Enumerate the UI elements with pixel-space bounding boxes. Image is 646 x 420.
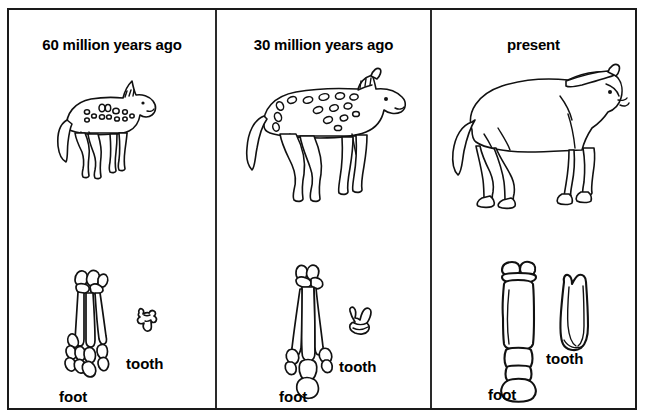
animal-illustration-30mya xyxy=(234,64,414,204)
panel-title-60mya: 60 million years ago xyxy=(9,36,215,53)
animal-illustration-present xyxy=(440,62,636,207)
horse-evolution-figure: 60 million years ago xyxy=(0,0,646,420)
foot-label-60mya: foot xyxy=(59,388,87,405)
tooth-label-60mya: tooth xyxy=(126,355,163,372)
animal-illustration-60mya xyxy=(55,70,165,185)
foot-illustration-present xyxy=(490,260,550,395)
foot-illustration-60mya xyxy=(53,266,133,386)
tooth-illustration-present xyxy=(550,268,606,358)
panel-title-present: present xyxy=(432,36,635,53)
tooth-label-30mya: tooth xyxy=(339,358,376,375)
foot-illustration-30mya xyxy=(275,262,345,392)
tooth-illustration-30mya xyxy=(343,306,381,342)
panel-30mya: 30 million years ago xyxy=(217,10,430,408)
foot-label-present: foot xyxy=(488,386,516,403)
tooth-illustration-60mya xyxy=(131,306,165,338)
panel-60mya: 60 million years ago xyxy=(9,10,215,408)
panel-present: present xyxy=(432,10,635,408)
foot-label-30mya: foot xyxy=(279,388,307,405)
tooth-label-present: tooth xyxy=(546,350,583,367)
panel-title-30mya: 30 million years ago xyxy=(217,36,430,53)
